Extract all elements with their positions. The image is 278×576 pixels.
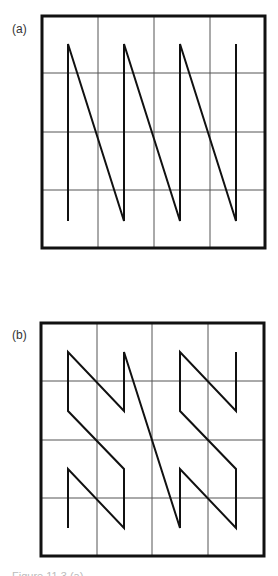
figure-caption: Figure 11.3 (a) ... [12,569,96,576]
panel-b-diagram [0,0,278,576]
